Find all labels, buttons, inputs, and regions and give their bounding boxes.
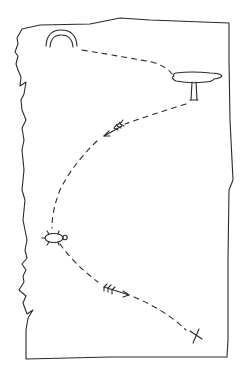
rainbow-arch-icon	[46, 30, 77, 47]
path-segment-4	[60, 244, 98, 282]
path-segment-3	[52, 141, 97, 228]
path-segment-2	[125, 104, 186, 124]
x-mark-icon	[190, 329, 202, 343]
turtle-icon	[42, 231, 67, 245]
path-segment-5	[134, 297, 186, 330]
arrow-icon	[104, 284, 129, 297]
treasure-map	[0, 0, 243, 372]
path-segment-1	[82, 50, 172, 74]
paper-outline	[15, 18, 233, 359]
arrow-icon	[104, 120, 124, 136]
flat-top-tree-icon	[172, 72, 222, 100]
